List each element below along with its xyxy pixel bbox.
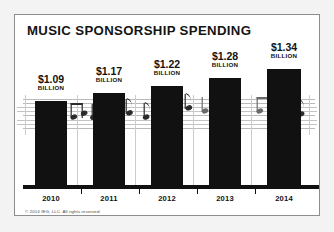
staff-barline <box>77 95 78 187</box>
chart-card: MUSIC SPONSORSHIP SPENDING <box>14 14 320 216</box>
staff-barline <box>251 95 252 187</box>
x-axis-label-2010: 2010 <box>27 194 75 203</box>
x-axis-label-2012: 2012 <box>143 194 191 203</box>
bar-unit-2012: BILLION <box>143 70 191 77</box>
copyright-notice: © 2014 IEG, LLC. All rights reserved. <box>25 209 101 214</box>
bar-unit-2010: BILLION <box>27 85 75 92</box>
x-axis-label-2013: 2013 <box>201 194 249 203</box>
bar-unit-2013: BILLION <box>201 62 249 69</box>
staff-barline <box>25 95 26 135</box>
bar-label-2013: $1.28 BILLION <box>201 51 249 69</box>
bar-2012 <box>151 86 183 185</box>
bar-unit-2011: BILLION <box>85 77 133 84</box>
bar-label-2012: $1.22 BILLION <box>143 59 191 77</box>
bar-2010 <box>35 101 67 185</box>
bar-2011 <box>93 93 125 185</box>
axis-tick <box>197 189 198 194</box>
x-axis-label-2014: 2014 <box>260 194 308 203</box>
staff-barline <box>193 95 194 187</box>
page-title: MUSIC SPONSORSHIP SPENDING <box>27 23 251 38</box>
bar-label-2014: $1.34 BILLION <box>260 42 308 60</box>
bar-2014 <box>267 69 301 185</box>
staff-barline <box>135 95 136 187</box>
staff-barline <box>309 95 310 135</box>
axis-baseline <box>23 185 320 189</box>
plot-area: $1.09 BILLION $1.17 BILLION $1.22 BILLIO… <box>23 45 313 185</box>
axis-tick <box>81 189 82 194</box>
axis-tick <box>139 189 140 194</box>
bar-label-2011: $1.17 BILLION <box>85 66 133 84</box>
bar-unit-2014: BILLION <box>260 53 308 60</box>
x-axis-label-2011: 2011 <box>85 194 133 203</box>
bar-2013 <box>209 78 241 185</box>
screenshot-root: MUSIC SPONSORSHIP SPENDING <box>0 0 334 232</box>
axis-tick <box>255 189 256 194</box>
bar-label-2010: $1.09 BILLION <box>27 74 75 92</box>
